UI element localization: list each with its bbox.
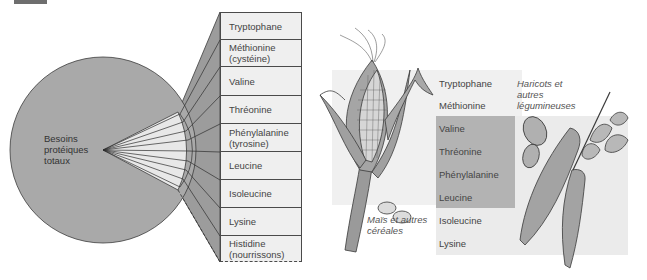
amino-acid-label: Histidine [229, 238, 301, 249]
food-amino-acid-label: Thréonine [439, 146, 482, 157]
amino-acid-label: (cystéine) [229, 53, 301, 64]
food-amino-acid-label: Méthionine [439, 100, 485, 111]
amino-acid-cell: Méthionine(cystéine) [220, 40, 302, 67]
amino-acid-label: Méthionine [229, 42, 301, 53]
amino-acid-label: Tryptophane [229, 21, 301, 32]
food-amino-acid-label: Lysine [439, 238, 466, 249]
amino-acid-cell: Phénylalanine(tyrosine) [220, 124, 302, 152]
legume-caption-line: autres [517, 89, 576, 100]
cereal-caption-line: céréales [367, 225, 427, 236]
food-amino-acid-label: Tryptophane [439, 78, 492, 89]
legume-caption-line: Haricots et [517, 78, 576, 89]
amino-acid-label: Thréonine [229, 104, 301, 115]
amino-acid-label: Valine [229, 76, 301, 87]
food-amino-acid-label: Isoleucine [439, 215, 482, 226]
amino-acid-label: (tyrosine) [229, 138, 301, 149]
protein-needs-diagram [0, 0, 647, 280]
cereal-caption-line: Maïs et autres [367, 214, 427, 225]
legume-caption-line: légumineuses [517, 100, 576, 111]
food-amino-acid-label: Leucine [439, 192, 472, 203]
food-amino-acid-label: Valine [439, 123, 465, 134]
amino-acid-cell: Leucine [220, 152, 302, 180]
amino-acid-label: Isoleucine [229, 188, 301, 199]
amino-acid-label: (nourrissons) [229, 249, 301, 260]
amino-acid-cell: Tryptophane [220, 12, 302, 40]
circle-label-line: protéiques [44, 144, 88, 155]
amino-acid-label: Lysine [229, 216, 301, 227]
circle-label-line: Besoins [44, 133, 88, 144]
amino-acid-label: Phénylalanine [229, 127, 301, 138]
amino-acid-cell: Valine [220, 67, 302, 96]
cereal-caption: Maïs et autres céréales [367, 214, 427, 236]
amino-acid-cell: Isoleucine [220, 180, 302, 208]
amino-acid-cell: Histidine(nourrissons) [220, 236, 302, 262]
legume-caption: Haricots et autres légumineuses [517, 78, 576, 111]
amino-acid-label: Leucine [229, 160, 301, 171]
circle-label: Besoins protéiques totaux [44, 133, 88, 166]
amino-acid-cell: Thréonine [220, 96, 302, 124]
food-amino-acid-label: Phénylalanine [439, 169, 499, 180]
circle-label-line: totaux [44, 155, 88, 166]
amino-acid-cell: Lysine [220, 208, 302, 236]
essential-amino-acid-list: TryptophaneMéthionine(cystéine)ValineThr… [220, 12, 302, 262]
